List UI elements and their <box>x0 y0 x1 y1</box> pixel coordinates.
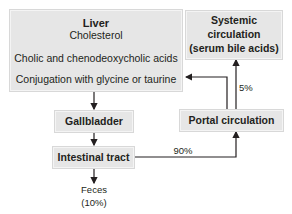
systemic-line3: (serum bile acids) <box>186 42 282 54</box>
systemic-line2: circulation <box>186 28 282 40</box>
liver-step-cholesterol: Cholesterol <box>10 29 182 41</box>
label-5-percent: 5% <box>239 82 259 93</box>
gallbladder-label: Gallbladder <box>55 115 133 127</box>
portal-circulation-label: Portal circulation <box>180 114 283 126</box>
arrow-portal-to-liver <box>186 77 227 110</box>
liver-step-conjugation: Conjugation with glycine or taurine <box>10 73 182 85</box>
intestinal-tract-label: Intestinal tract <box>53 151 134 163</box>
feces-percent: (10%) <box>64 197 124 208</box>
liver-step-acids: Cholic and chenodeoxycholic acids <box>10 52 182 64</box>
label-90-percent: 90% <box>168 145 198 156</box>
feces-label: Feces <box>64 184 124 195</box>
systemic-line1: Systemic <box>186 14 282 26</box>
liver-title: Liver <box>10 17 182 29</box>
